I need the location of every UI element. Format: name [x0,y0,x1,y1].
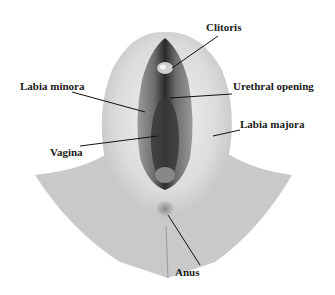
label-labia-minora: Labia minora [20,80,84,92]
label-urethral-opening: Urethral opening [233,80,314,92]
anatomy-diagram: Clitoris Labia minora Urethral opening L… [0,0,335,295]
label-clitoris: Clitoris [206,21,241,33]
label-anus: Anus [175,266,199,278]
label-vagina: Vagina [50,146,83,158]
label-labia-majora: Labia majora [240,118,304,130]
